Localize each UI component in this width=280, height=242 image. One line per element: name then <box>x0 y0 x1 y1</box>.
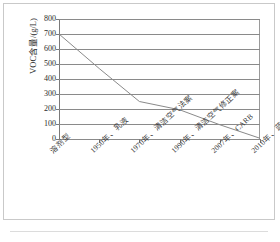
y-tick-mark <box>56 124 59 125</box>
y-tick-label: 100 <box>30 120 56 128</box>
y-tick-mark <box>56 49 59 50</box>
y-tick-label: 200 <box>30 105 56 113</box>
gridline <box>59 19 260 20</box>
x-tick-mark <box>260 139 261 143</box>
y-tick-label: 300 <box>30 90 56 98</box>
y-tick-label: 400 <box>30 75 56 83</box>
gridline <box>59 109 260 110</box>
x-tick-mark <box>139 139 140 143</box>
chart-page: VOC含量/(g/L) 0100200300400500600700800 溶剂… <box>0 0 280 242</box>
y-tick-label: 500 <box>30 60 56 68</box>
y-tick-mark <box>56 64 59 65</box>
x-tick-mark <box>220 139 221 143</box>
y-tick-mark <box>56 109 59 110</box>
gridline <box>59 139 260 140</box>
gridline <box>59 79 260 80</box>
y-tick-mark <box>56 34 59 35</box>
x-tick-mark <box>99 139 100 143</box>
y-tick-mark <box>56 19 59 20</box>
gridline <box>59 64 260 65</box>
gridline <box>59 94 260 95</box>
y-tick-label: 0 <box>30 135 56 143</box>
x-tick-mark <box>180 139 181 143</box>
y-axis-tick-labels: 0100200300400500600700800 <box>30 0 56 140</box>
y-tick-label: 700 <box>30 30 56 38</box>
y-tick-mark <box>56 94 59 95</box>
y-tick-label: 800 <box>30 15 56 23</box>
voc-line-chart: VOC含量/(g/L) 0100200300400500600700800 溶剂… <box>0 0 280 242</box>
gridline <box>59 49 260 50</box>
plot-area <box>59 19 260 139</box>
y-tick-label: 600 <box>30 45 56 53</box>
gridline <box>59 34 260 35</box>
gridline <box>59 124 260 125</box>
y-tick-mark <box>56 79 59 80</box>
y-tick-mark <box>56 139 59 140</box>
